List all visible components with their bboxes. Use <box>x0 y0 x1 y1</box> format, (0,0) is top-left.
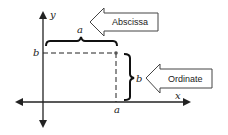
point-x-label: a <box>114 104 120 115</box>
vertical-brace-label: b <box>136 73 142 84</box>
y-axis-label: y <box>49 9 56 20</box>
y-axis <box>39 11 47 128</box>
point-marker <box>114 51 118 55</box>
x-axis-right-arrow-icon <box>183 98 191 106</box>
ordinate-callout: Ordinate <box>146 64 212 93</box>
x-axis-left-arrow-icon <box>15 98 23 106</box>
vertical-brace <box>124 54 134 100</box>
x-axis <box>15 98 191 106</box>
abscissa-callout: Abscissa <box>90 8 158 36</box>
horizontal-brace-label: a <box>77 24 83 35</box>
y-axis-up-arrow-icon <box>39 11 47 19</box>
abscissa-label: Abscissa <box>112 17 148 27</box>
x-axis-label: x <box>175 90 181 101</box>
y-axis-down-arrow-icon <box>39 120 47 128</box>
coordinate-diagram: y x b a a b Abscissa Ordinate <box>0 0 228 135</box>
point-y-label: b <box>33 47 39 58</box>
ordinate-label: Ordinate <box>168 74 203 84</box>
horizontal-brace <box>46 37 117 46</box>
